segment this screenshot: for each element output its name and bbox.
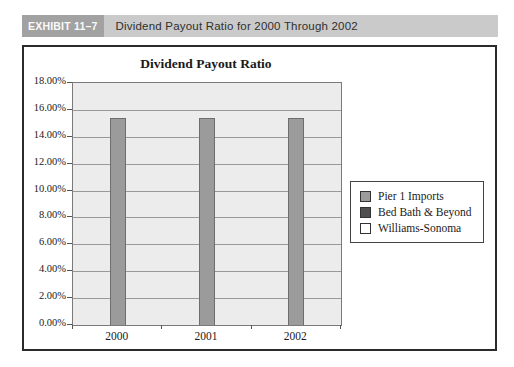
y-axis-tick-label: 12.00% xyxy=(20,156,66,167)
y-axis-tick-label: 16.00% xyxy=(20,102,66,113)
x-axis-tick xyxy=(340,325,341,329)
legend: Pier 1 ImportsBed Bath & BeyondWilliams-… xyxy=(350,181,484,243)
x-axis-tick xyxy=(251,325,252,329)
y-axis-tick xyxy=(67,270,72,271)
y-axis-tick xyxy=(67,163,72,164)
legend-row: Williams-Sonoma xyxy=(360,220,483,236)
legend-swatch-icon xyxy=(360,191,371,202)
y-axis-tick-label: 6.00% xyxy=(20,236,66,247)
x-axis-tick-label: 2002 xyxy=(265,330,325,342)
y-axis-tick xyxy=(67,243,72,244)
legend-label: Bed Bath & Beyond xyxy=(378,206,472,218)
bar-2002-pier-1-imports xyxy=(288,118,304,325)
legend-swatch-icon xyxy=(360,207,371,218)
x-axis-tick-label: 2001 xyxy=(176,330,236,342)
chart-title: Dividend Payout Ratio xyxy=(72,56,340,72)
legend-label: Pier 1 Imports xyxy=(378,190,444,202)
y-axis-tick-label: 8.00% xyxy=(20,209,66,220)
exhibit-header: EXHIBIT 11–7 Dividend Payout Ratio for 2… xyxy=(22,15,498,37)
plot-area xyxy=(72,82,342,326)
legend-label: Williams-Sonoma xyxy=(378,222,461,234)
chart-panel: Dividend Payout Ratio 0.00%2.00%4.00%6.0… xyxy=(22,45,497,351)
y-axis-tick xyxy=(67,216,72,217)
y-axis-tick xyxy=(67,136,72,137)
y-axis-tick-label: 14.00% xyxy=(20,129,66,140)
y-axis-tick xyxy=(67,297,72,298)
y-axis-tick xyxy=(67,82,72,83)
y-axis-tick xyxy=(67,109,72,110)
legend-row: Pier 1 Imports xyxy=(360,188,483,204)
exhibit-number-badge: EXHIBIT 11–7 xyxy=(22,15,104,37)
legend-swatch-icon xyxy=(360,223,371,234)
bar-2001-pier-1-imports xyxy=(199,118,215,325)
exhibit-title: Dividend Payout Ratio for 2000 Through 2… xyxy=(104,20,358,32)
x-axis-tick xyxy=(161,325,162,329)
legend-row: Bed Bath & Beyond xyxy=(360,204,483,220)
y-axis-tick-label: 4.00% xyxy=(20,263,66,274)
x-axis-tick-label: 2000 xyxy=(87,330,147,342)
x-axis-tick xyxy=(72,325,73,329)
gridline xyxy=(73,110,341,111)
y-axis-tick-label: 2.00% xyxy=(20,290,66,301)
bar-2000-pier-1-imports xyxy=(110,118,126,325)
y-axis-tick-label: 0.00% xyxy=(20,317,66,328)
page: EXHIBIT 11–7 Dividend Payout Ratio for 2… xyxy=(0,0,514,367)
y-axis-tick-label: 10.00% xyxy=(20,183,66,194)
y-axis-tick-label: 18.00% xyxy=(20,75,66,86)
y-axis-tick xyxy=(67,190,72,191)
